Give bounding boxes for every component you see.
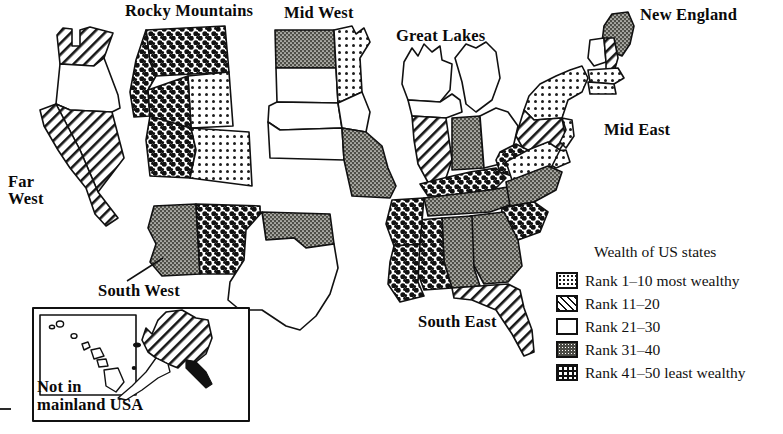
region-new-england — [588, 12, 634, 94]
state-ct-ri — [588, 82, 616, 94]
region-label-great-lakes: Great Lakes — [396, 27, 485, 44]
legend-swatch-light-dots — [556, 272, 578, 289]
legend-label-rank-1-10: Rank 1–10 most wealthy — [585, 272, 740, 290]
state-ne — [268, 102, 342, 130]
legend-swatch-bold-blotch — [556, 364, 578, 381]
state-ny — [524, 66, 588, 120]
state-il — [412, 116, 452, 186]
region-label-mid-east: Mid East — [604, 121, 670, 138]
legend-item-rank-31-40[interactable]: Rank 31–40 — [556, 339, 783, 361]
region-label-south-east: South East — [418, 313, 497, 330]
state-az — [148, 204, 200, 276]
state-or — [56, 58, 120, 112]
state-sd — [276, 68, 338, 103]
state-mi — [455, 42, 500, 112]
region-label-far-west: Far West — [8, 173, 44, 208]
state-in — [452, 116, 484, 170]
legend-item-rank-1-10[interactable]: Rank 1–10 most wealthy — [556, 270, 783, 292]
inset-caption: Not in mainland USA — [37, 378, 143, 415]
state-mo — [342, 128, 396, 198]
legend-label-rank-31-40: Rank 31–40 — [585, 341, 660, 359]
region-label-south-west: South West — [98, 282, 180, 299]
state-vt — [588, 38, 606, 66]
region-label-mid-west: Mid West — [284, 4, 354, 21]
state-mn — [334, 26, 370, 103]
region-rocky-mountains — [130, 26, 252, 186]
state-mt — [146, 26, 229, 76]
legend-swatch-diagonal-hatch — [556, 295, 578, 312]
state-ma — [588, 68, 624, 84]
legend-swatch-plain-white — [556, 318, 578, 335]
region-label-rocky-mountains: Rocky Mountains — [125, 2, 253, 19]
state-nd — [275, 30, 336, 68]
legend-label-rank-11-20: Rank 11–20 — [585, 295, 660, 313]
state-wi — [402, 44, 452, 102]
legend-item-rank-21-30[interactable]: Rank 21–30 — [556, 316, 783, 338]
legend-item-rank-41-50[interactable]: Rank 41–50 least wealthy — [556, 362, 783, 384]
region-mid-west — [268, 26, 396, 198]
state-la — [388, 244, 424, 302]
state-wy — [188, 72, 233, 128]
region-label-new-england: New England — [640, 6, 737, 23]
state-co — [190, 128, 252, 186]
legend-label-rank-41-50: Rank 41–50 least wealthy — [585, 364, 746, 382]
region-far-west — [40, 27, 124, 226]
legend-swatch-dark-stipple — [556, 341, 578, 358]
legend-item-rank-11-20[interactable]: Rank 11–20 — [556, 293, 783, 315]
wealth-of-us-states-map: Rocky Mountains Mid West Great Lakes New… — [0, 0, 783, 434]
legend-title: Wealth of US states — [594, 243, 783, 261]
legend-label-rank-21-30: Rank 21–30 — [585, 318, 660, 336]
page-edge-mark — [0, 408, 11, 410]
legend: Wealth of US states Rank 1–10 most wealt… — [556, 243, 783, 385]
state-ar — [386, 198, 424, 246]
